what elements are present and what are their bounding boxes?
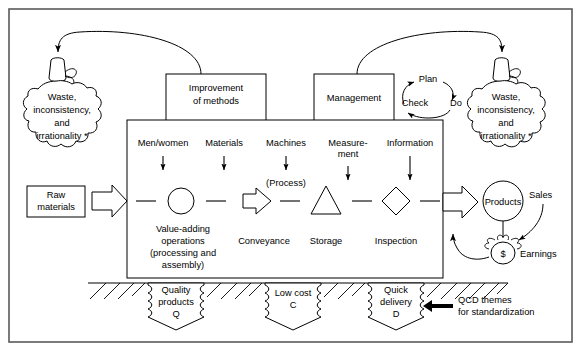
- qcd-banner-quality: Quality products Q: [148, 283, 204, 330]
- waste-right-line2: inconsistency,: [477, 105, 535, 115]
- management-label: Management: [327, 93, 382, 103]
- symbol-caption-storage: Storage: [310, 236, 343, 246]
- waste-left-line1: Waste,: [48, 92, 77, 102]
- diagram-canvas: Waste, inconsistency, and irrationality …: [0, 0, 582, 352]
- qcd-quickdelivery-line2: delivery: [380, 297, 412, 307]
- input-label-machines: Machines: [266, 138, 306, 148]
- arc-improvement-to-waste: [58, 31, 201, 74]
- arc-management-to-waste: [357, 31, 502, 74]
- qcd-callout: QCD themes for standardization: [423, 295, 535, 317]
- operation-circle-icon: [168, 188, 194, 214]
- waste-right-line4: irrationality *: [480, 131, 532, 141]
- qcd-quality-line3: Q: [172, 309, 179, 319]
- earnings-feedback-arrow: [453, 234, 489, 259]
- qcd-quality-line2: products: [158, 297, 194, 307]
- waste-left-line2: inconsistency,: [33, 105, 91, 115]
- qcd-callout-line2: for standardization: [458, 307, 535, 317]
- input-label-measurement-line1: Measure-: [328, 138, 367, 148]
- waste-bag-right: Waste, inconsistency, and irrationality …: [467, 58, 545, 147]
- products-output-arrow: [443, 186, 478, 218]
- symbol-caption-operation-line4: assembly): [162, 260, 204, 270]
- money-symbol: $: [500, 249, 506, 259]
- waste-left-line3: and: [54, 118, 70, 128]
- qcd-quality-line1: Quality: [162, 285, 191, 295]
- qcd-lowcost-line2: C: [290, 300, 297, 310]
- sales-label: Sales: [529, 190, 553, 200]
- qcd-banner-lowcost: Low cost C: [265, 283, 321, 330]
- waste-bag-left: Waste, inconsistency, and irrationality …: [23, 58, 101, 147]
- waste-right-line3: and: [498, 118, 514, 128]
- input-label-information: Information: [387, 138, 434, 148]
- qcd-quickdelivery-line1: Quick: [384, 285, 408, 295]
- raw-materials-line2: materials: [37, 202, 75, 212]
- qcd-banner-quickdelivery: Quick delivery D: [368, 283, 424, 330]
- improvement-line1: Improvement: [189, 83, 244, 93]
- qcd-callout-line1: QCD themes: [458, 295, 512, 305]
- pdca-plan-label: Plan: [419, 74, 438, 84]
- products-label: Products: [485, 197, 522, 207]
- sales-arrow: [519, 204, 543, 240]
- input-label-men-women: Men/women: [138, 138, 189, 148]
- pdca-do-label: Do: [450, 98, 462, 108]
- pdca-check-label: Check: [402, 98, 429, 108]
- symbol-caption-operation-line3: (processing and: [150, 248, 216, 258]
- raw-materials-box: Raw materials: [27, 186, 85, 217]
- qcd-lowcost-line1: Low cost: [275, 288, 312, 298]
- symbol-caption-operation-line1: Value-adding: [156, 224, 210, 234]
- symbol-caption-inspection: Inspection: [375, 236, 417, 246]
- qcd-quickdelivery-line3: D: [393, 309, 400, 319]
- management-box: Management: [314, 74, 394, 121]
- input-label-measurement-line2: ment: [338, 149, 359, 159]
- waste-right-line1: Waste,: [492, 92, 521, 102]
- symbol-caption-operation-line2: operations: [161, 236, 205, 246]
- input-label-materials: Materials: [205, 138, 243, 148]
- pdca-cycle: Plan Do Check: [402, 74, 462, 118]
- improvement-of-methods-box: Improvement of methods: [166, 74, 266, 121]
- process-note: (Process): [266, 178, 306, 188]
- earnings-label: Earnings: [520, 249, 557, 259]
- symbol-caption-conveyance: Conveyance: [238, 236, 290, 246]
- raw-materials-input-arrow: [92, 185, 127, 217]
- improvement-line2: of methods: [193, 96, 239, 106]
- waste-left-line4: irrationality *: [36, 131, 88, 141]
- earnings-money-bag: $: [485, 235, 521, 264]
- raw-materials-line1: Raw: [47, 190, 66, 200]
